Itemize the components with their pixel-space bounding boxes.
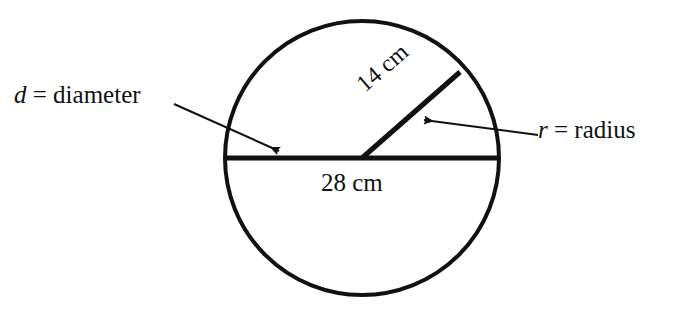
diagram-canvas <box>0 0 680 319</box>
radius-label-text: = radius <box>548 116 636 143</box>
radius-variable-symbol: r <box>538 116 548 143</box>
diameter-label-text: = diameter <box>27 81 141 108</box>
radius-label: r = radius <box>538 117 635 142</box>
circle-diagram: d = diameter r = radius 28 cm 14 cm <box>0 0 680 319</box>
radius-leader-line <box>424 120 538 135</box>
diameter-measurement-label: 28 cm <box>321 170 383 195</box>
diameter-variable-symbol: d <box>14 81 27 108</box>
diameter-label: d = diameter <box>14 82 141 107</box>
